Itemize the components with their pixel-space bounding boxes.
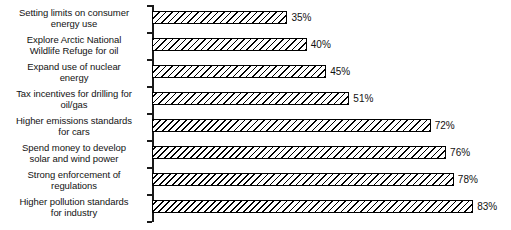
category-label: Tax incentives for drilling for oil/gas xyxy=(0,89,148,110)
bar-value-label: 76% xyxy=(450,146,470,159)
bar-chart: Setting limits on consumer energy use 35… xyxy=(0,0,511,230)
category-label: Higher pollution standards for industry xyxy=(0,197,148,218)
category-label: Setting limits on consumer energy use xyxy=(0,8,148,29)
plot-area: Setting limits on consumer energy use 35… xyxy=(0,0,511,230)
bar-value-label: 78% xyxy=(458,173,478,186)
category-label: Expand use of nuclear energy xyxy=(0,62,148,83)
category-label: Spend money to develop solar and wind po… xyxy=(0,143,148,164)
bar xyxy=(152,65,326,78)
axis-tick xyxy=(147,32,152,34)
axis-tick xyxy=(147,113,152,115)
category-label: Higher emissions standards for cars xyxy=(0,116,148,137)
category-label: Explore Arctic National Wildlife Refuge … xyxy=(0,35,148,56)
bar xyxy=(152,38,307,51)
axis-tick xyxy=(147,194,152,196)
bar-value-label: 83% xyxy=(477,200,497,213)
bar xyxy=(152,119,431,132)
axis-tick xyxy=(147,5,152,7)
axis-tick xyxy=(147,140,152,142)
category-label: Strong enforcement of regulations xyxy=(0,170,148,191)
bar xyxy=(152,11,287,24)
bar-value-label: 51% xyxy=(353,92,373,105)
bar xyxy=(152,200,473,213)
bar-value-label: 45% xyxy=(330,65,350,78)
axis-tick xyxy=(147,167,152,169)
bar-value-label: 40% xyxy=(311,38,331,51)
bar-value-label: 72% xyxy=(435,119,455,132)
bar xyxy=(152,92,349,105)
axis-tick xyxy=(147,221,152,223)
axis-tick xyxy=(147,59,152,61)
bar xyxy=(152,146,446,159)
axis-tick xyxy=(147,86,152,88)
bar-value-label: 35% xyxy=(291,11,311,24)
bar xyxy=(152,173,454,186)
